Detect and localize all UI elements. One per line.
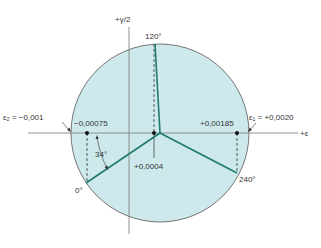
value-left-label: −0,00075 — [74, 119, 108, 128]
angle-120-label: 120° — [145, 32, 162, 41]
point-center — [152, 131, 156, 135]
epsilon-axis-label: +ε — [300, 129, 309, 138]
angle-34-label: 34° — [95, 150, 107, 159]
point-right — [235, 131, 239, 135]
value-right-label: +0,00185 — [200, 119, 234, 128]
value-center-label: +0,0004 — [134, 162, 164, 171]
gamma-axis-label: +γ/2 — [115, 15, 131, 24]
eps1-label: ε₁ = +0,0020 — [249, 113, 294, 122]
angle-0-label: 0° — [75, 186, 83, 195]
point-left — [85, 131, 89, 135]
angle-240-label: 240° — [239, 175, 256, 184]
mohr-circle-diagram: +γ/2 +ε 120° 240° 0° 34° ε₂ = −0,001 ε₁ … — [0, 0, 321, 248]
eps2-label: ε₂ = −0,001 — [3, 113, 44, 122]
